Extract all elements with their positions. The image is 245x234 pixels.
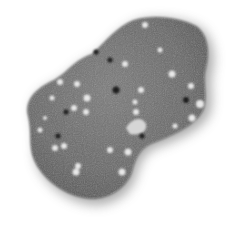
rock-texture — [27, 17, 208, 199]
photo — [0, 0, 245, 234]
rock-image — [0, 0, 245, 234]
